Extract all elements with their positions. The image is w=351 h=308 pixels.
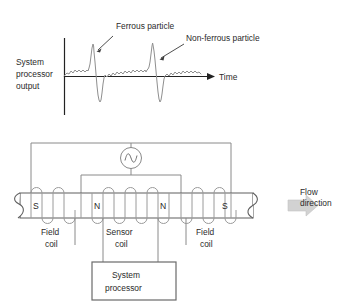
pole-label-s-right: S — [222, 201, 228, 211]
pole-label-n-right: N — [160, 201, 166, 211]
time-axis-label: Time — [219, 72, 238, 82]
ferrous-particle-leader — [98, 36, 113, 50]
processor-output-trace — [64, 43, 201, 102]
system-processor-label-line1: System — [112, 270, 140, 280]
sensor-coil-label-line1: Sensor — [106, 227, 133, 237]
pole-label-n-left: N — [94, 201, 100, 211]
flow-direction-caption: Flow direction — [300, 187, 332, 209]
field-coil-left-label-line2: coil — [45, 239, 58, 249]
diagram-canvas: Ferrous particle Non-ferrous particle Sy… — [0, 0, 351, 308]
ferrous-particle-label: Ferrous particle — [116, 21, 175, 31]
time-axis-arrowhead — [207, 73, 215, 80]
flow-direction-text-line2: direction — [300, 198, 332, 209]
system-processor-box[interactable] — [92, 262, 176, 300]
system-processor-label-line2: processor — [105, 283, 142, 293]
y-axis-label-line2: processor — [16, 69, 53, 79]
pole-label-s-left: S — [33, 201, 39, 211]
ac-source-sine-icon — [125, 154, 137, 162]
field-coil-left-label-line1: Field — [41, 227, 59, 237]
non-ferrous-particle-arrowhead — [160, 56, 165, 61]
non-ferrous-particle-label: Non-ferrous particle — [186, 33, 260, 43]
flow-direction-text-line1: Flow — [300, 187, 332, 198]
field-coil-right-label-line1: Field — [196, 227, 214, 237]
field-coil-right-label-line2: coil — [200, 239, 213, 249]
y-axis-label-line1: System — [16, 57, 44, 67]
y-axis-label-line3: output — [16, 81, 40, 91]
non-ferrous-particle-leader — [161, 44, 184, 58]
sensor-coil-label-line2: coil — [115, 239, 128, 249]
